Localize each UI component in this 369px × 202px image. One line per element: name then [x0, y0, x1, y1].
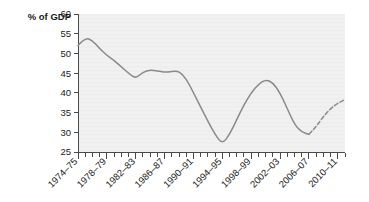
plot-background-band	[78, 122, 345, 123]
plot-background-band	[78, 98, 345, 99]
plot-background-band	[78, 58, 345, 59]
x-axis-tick-labels: 1974–751978–791982–831986–871990–911994–…	[45, 156, 339, 190]
y-tick-label: 60	[60, 8, 71, 19]
plot-background-band	[78, 146, 345, 147]
plot-background-band	[78, 34, 345, 35]
x-axis-ticks	[78, 153, 345, 160]
plot-background-band	[78, 42, 345, 43]
plot-background-band	[78, 18, 345, 19]
y-tick-label: 55	[60, 28, 71, 39]
y-axis-ticks: 2530354045505560	[60, 8, 78, 157]
y-tick-label: 50	[60, 48, 71, 59]
x-tick-label: 2006–07	[276, 156, 310, 190]
y-tick-label: 30	[60, 127, 71, 138]
plot-background-band	[78, 66, 345, 67]
x-axis: 1974–751978–791982–831986–871990–911994–…	[45, 153, 345, 190]
x-tick-label: 1986–87	[132, 156, 166, 190]
plot-background-band	[78, 74, 345, 75]
plot-background-band	[78, 26, 345, 27]
plot-background-band	[78, 142, 345, 143]
plot-background-band	[78, 46, 345, 47]
plot-background-band	[78, 70, 345, 71]
plot-background-band	[78, 130, 345, 131]
x-tick-label: 2002–03	[248, 156, 282, 190]
plot-background-band	[78, 14, 345, 15]
y-tick-label: 35	[60, 107, 71, 118]
plot-background-band	[78, 86, 345, 87]
plot-background-band	[78, 30, 345, 31]
x-tick-label: 1990–91	[161, 156, 195, 190]
y-axis: 2530354045505560	[60, 8, 78, 157]
plot-area-background	[78, 14, 345, 152]
y-tick-label: 25	[60, 146, 71, 157]
plot-background-band	[78, 138, 345, 139]
x-tick-label: 1994–95	[190, 156, 224, 190]
x-tick-label: 2010–11	[306, 156, 339, 189]
plot-background-band	[78, 114, 345, 115]
plot-background-band	[78, 102, 345, 103]
y-tick-label: 45	[60, 68, 71, 79]
plot-background-band	[78, 90, 345, 91]
x-tick-label: 1974–75	[45, 156, 79, 190]
x-tick-label: 1998–99	[219, 156, 253, 190]
plot-background-band	[78, 150, 345, 151]
plot-background-band	[78, 50, 345, 51]
plot-background-band	[78, 22, 345, 23]
x-tick-label: 1978–79	[74, 156, 108, 190]
plot-background-band	[78, 118, 345, 119]
plot-background-band	[78, 94, 345, 95]
x-tick-label: 1982–83	[103, 156, 137, 190]
plot-background-band	[78, 78, 345, 79]
plot-background-band	[78, 54, 345, 55]
plot-background-band	[78, 110, 345, 111]
plot-background-bands	[78, 14, 345, 151]
chart-container: % of GDP 2530354045505560 1974–751978–79…	[0, 0, 369, 202]
line-chart: % of GDP 2530354045505560 1974–751978–79…	[0, 0, 369, 202]
plot-background-band	[78, 106, 345, 107]
plot-background-band	[78, 82, 345, 83]
plot-background-band	[78, 134, 345, 135]
y-tick-label: 40	[60, 87, 71, 98]
plot-background-band	[78, 38, 345, 39]
